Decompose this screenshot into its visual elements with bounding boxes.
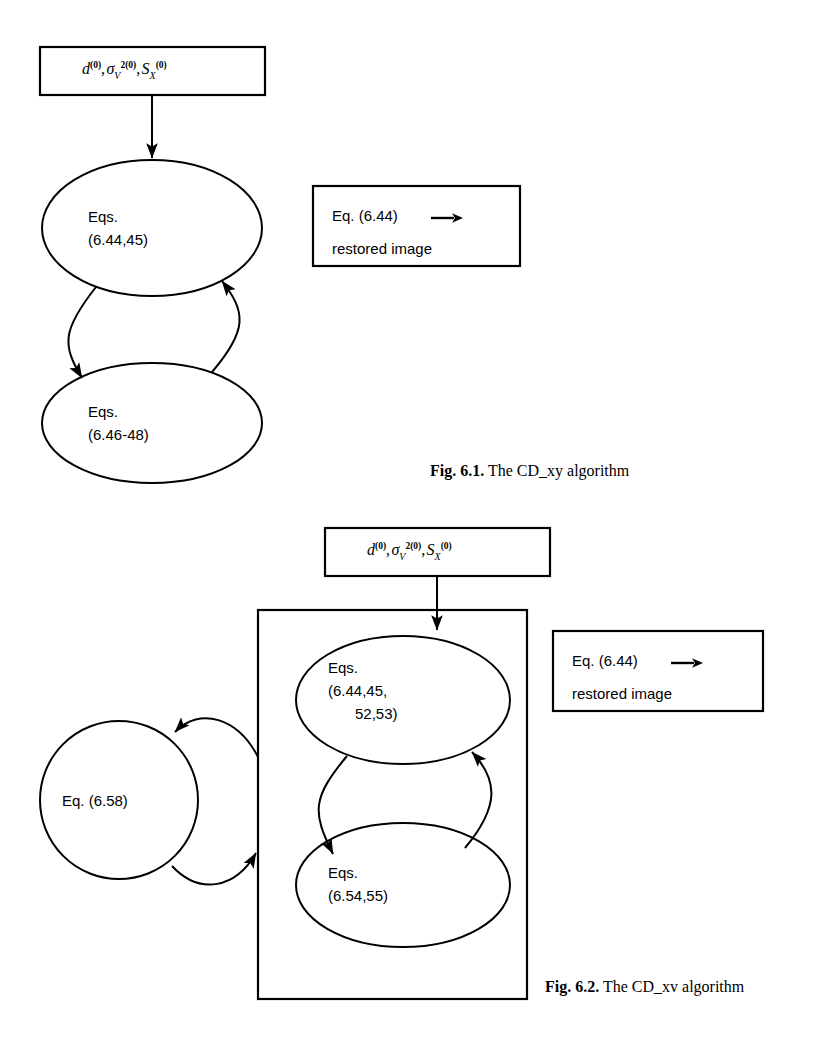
figure-2-caption: Fig. 6.2. The CD_xv algorithm [545, 978, 744, 996]
figure-1-caption-prefix: Fig. 6.1. [430, 462, 484, 479]
fig2-outer-loop-left-arrow [175, 718, 258, 757]
fig2-outer-loop-right-arrow [172, 853, 256, 885]
fig2-node-lower-eqs: (6.54,55) [328, 885, 388, 906]
figure-2-graphics [40, 528, 763, 999]
fig1-node-upper-label: Eqs. [88, 206, 118, 227]
fig2-output-result: restored image [572, 683, 672, 704]
fig1-node-lower [42, 363, 262, 483]
fig2-node-upper-eqs-line2: 52,53) [355, 703, 398, 724]
fig2-inner-loop-up-arrow [465, 752, 491, 848]
fig1-node-upper [42, 160, 262, 296]
fig1-loop-down-arrow [68, 287, 96, 378]
fig1-output-result: restored image [332, 238, 432, 259]
figure-2-caption-text: The CD_xv algorithm [599, 978, 744, 995]
fig1-node-lower-eqs: (6.46-48) [88, 424, 149, 445]
figure-1-caption-text: The CD_xy algorithm [484, 462, 629, 479]
fig2-input-expression: d(0), σV2(0), SX(0) [367, 541, 452, 562]
figure-1-caption: Fig. 6.1. The CD_xy algorithm [430, 462, 629, 480]
fig2-node-left-label: Eq. (6.58) [62, 790, 128, 811]
fig1-node-upper-eqs: (6.44,45) [88, 229, 148, 250]
fig2-node-lower-label: Eqs. [328, 862, 358, 883]
fig2-node-upper-label: Eqs. [328, 657, 358, 678]
fig1-output-equation: Eq. (6.44) [332, 205, 398, 226]
figure-2-caption-prefix: Fig. 6.2. [545, 978, 599, 995]
fig1-input-expression: d(0), σV2(0), SX(0) [82, 60, 167, 81]
figure-canvas [0, 0, 831, 1059]
fig2-node-upper-eqs-line1: (6.44,45, [328, 680, 387, 701]
fig1-node-lower-label: Eqs. [88, 401, 118, 422]
fig1-loop-up-arrow [212, 281, 240, 372]
right-arrow-icon [670, 656, 704, 670]
right-arrow-icon [430, 211, 464, 225]
fig2-output-equation: Eq. (6.44) [572, 650, 638, 671]
